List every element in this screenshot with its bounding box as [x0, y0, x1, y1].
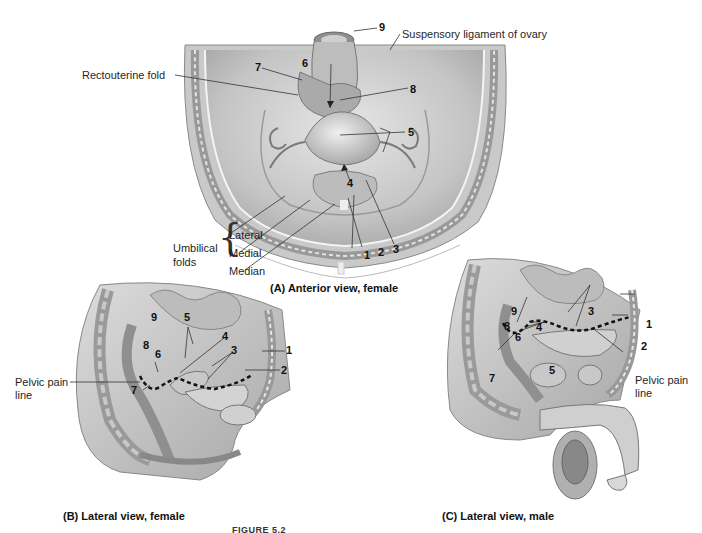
label-a-7: 7: [255, 61, 261, 73]
label-c-9: 9: [511, 305, 517, 317]
panel-c-lateral-male: 9 8 6 4 3 1 2 5 7 Pelvic pain line: [440, 250, 702, 520]
label-a-2: 2: [378, 246, 384, 258]
label-b-4: 4: [222, 330, 228, 342]
label-umbilical: Umbilical: [173, 242, 218, 254]
label-b-6: 6: [155, 348, 161, 360]
label-a-9: 9: [379, 21, 385, 33]
label-rectouterine-fold: Rectouterine fold: [82, 69, 165, 81]
label-a-1: 1: [364, 249, 370, 261]
label-c-7: 7: [489, 372, 495, 384]
label-a-6: 6: [302, 57, 308, 69]
label-a-5: 5: [408, 126, 414, 138]
label-median: Median: [229, 265, 265, 277]
label-b-1: 1: [286, 344, 292, 356]
label-b-5: 5: [184, 311, 190, 323]
label-b-9: 9: [151, 311, 157, 323]
panel-b-lateral-female: 9 5 4 3 8 6 1 2 7 Pelvic pain line: [0, 280, 340, 533]
caption-panel-b: (B) Lateral view, female: [63, 510, 185, 522]
label-c-8: 8: [504, 320, 510, 332]
caption-panel-c: (C) Lateral view, male: [442, 510, 554, 522]
label-c-5: 5: [549, 364, 555, 376]
label-c-6: 6: [515, 331, 521, 343]
label-b-7: 7: [131, 384, 137, 396]
figure-caption-cropped: FIGURE 5.2: [232, 525, 286, 533]
label-b-2: 2: [281, 364, 287, 376]
label-lateral: Lateral: [229, 229, 263, 241]
label-suspensory-ligament: Suspensory ligament of ovary: [402, 28, 547, 40]
label-b-8: 8: [143, 339, 149, 351]
label-c-2: 2: [641, 340, 647, 352]
label-medial: Medial: [229, 247, 261, 259]
label-c-3: 3: [588, 305, 594, 317]
label-b-pelvic-pain: Pelvic pain: [15, 376, 68, 388]
label-b-line: line: [15, 389, 32, 401]
label-a-3: 3: [393, 243, 399, 255]
label-a-4: 4: [347, 177, 353, 189]
label-c-4: 4: [536, 321, 542, 333]
label-c-1: 1: [646, 318, 652, 330]
label-folds: folds: [173, 256, 196, 268]
label-a-8: 8: [410, 83, 416, 95]
lateral-female-illustration: [0, 280, 340, 533]
label-c-line: line: [635, 387, 652, 399]
label-b-3: 3: [231, 344, 237, 356]
label-c-pelvic-pain: Pelvic pain: [635, 374, 688, 386]
